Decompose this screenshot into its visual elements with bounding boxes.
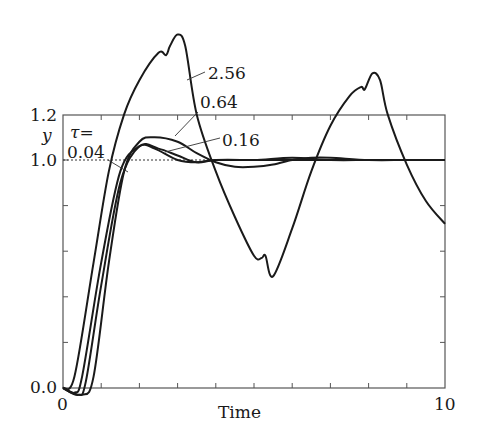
curve-tau-0.16 [63,144,445,395]
ytick-label-1.2: 1.2 [30,105,57,125]
curve-tau-2.56 [63,35,445,390]
series-curves [63,35,445,396]
y-axis-label: y [41,125,52,145]
label-tau-0.04: 0.04 [67,142,105,162]
xtick-label-10: 10 [434,394,456,414]
label-tau-0.16: 0.16 [222,130,260,150]
legend-header-tau: τ= [70,122,94,142]
xtick-label-0: 0 [57,394,68,414]
curve-tau-0.64 [63,137,445,395]
x-axis-label: Time [218,402,261,422]
ytick-label-1.0: 1.0 [30,150,57,170]
axis-ticks [63,115,445,388]
plot-frame [63,115,445,388]
label-tau-2.56: 2.56 [208,63,246,83]
step-response-chart: 2.56 0.64 0.16 0.04 τ= 1.2 1.0 0.0 y 0 1… [0,0,484,444]
label-tau-0.64: 0.64 [200,92,238,112]
ytick-label-0.0: 0.0 [30,377,57,397]
